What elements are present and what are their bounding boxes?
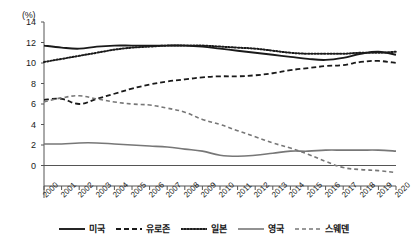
y-axis-tick-label: 6 (16, 99, 36, 109)
y-axis-tick-label: 2 (16, 140, 36, 150)
legend-label: 영국 (268, 222, 284, 235)
series-line (44, 96, 396, 173)
legend-swatch (238, 225, 264, 233)
y-axis-tick-label: 14 (16, 17, 36, 27)
legend-swatch (181, 225, 207, 233)
series-line (44, 61, 396, 104)
y-axis-tick-label: 12 (16, 38, 36, 48)
legend-item[interactable]: 미국 (59, 222, 105, 235)
legend-label: 유로존 (146, 222, 170, 235)
legend-label: 미국 (89, 222, 105, 235)
series-lines (44, 45, 396, 172)
y-axis-tick-label: 0 (16, 161, 36, 171)
y-axis-tick-label: 8 (16, 79, 36, 89)
legend-swatch (59, 225, 85, 233)
legend-item[interactable]: 유로존 (116, 222, 170, 235)
legend-swatch (116, 225, 142, 233)
y-axis-tick-label: 4 (16, 120, 36, 130)
legend-label: 일본 (211, 222, 227, 235)
legend-swatch (295, 225, 321, 233)
chart-legend: 미국유로존일본영국스웨덴 (0, 222, 408, 235)
series-line (44, 143, 396, 156)
y-axis-tick-label: 10 (16, 58, 36, 68)
legend-item[interactable]: 일본 (181, 222, 227, 235)
legend-item[interactable]: 영국 (238, 222, 284, 235)
legend-label: 스웨덴 (325, 222, 349, 235)
legend-item[interactable]: 스웨덴 (295, 222, 349, 235)
